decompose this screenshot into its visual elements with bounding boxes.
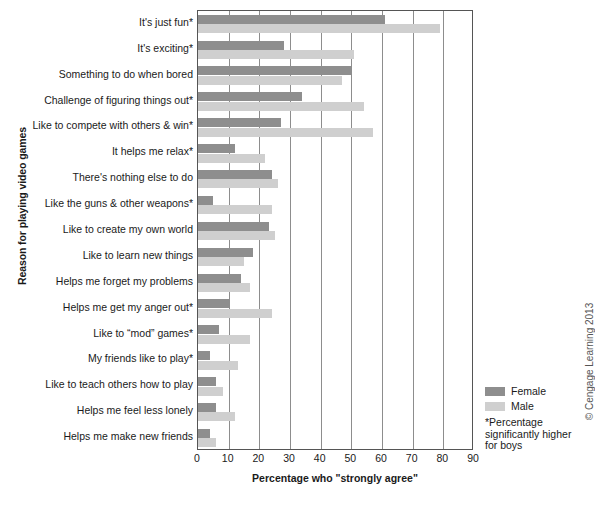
category-label-2: Something to do when bored (18, 69, 193, 80)
bar-female-7 (198, 196, 213, 205)
bar-male-6 (198, 179, 278, 188)
bar-female-8 (198, 222, 269, 231)
category-label-list: It's just fun*It's exciting*Something to… (18, 10, 193, 450)
x-tick-80: 80 (427, 452, 457, 464)
bar-male-16 (198, 438, 216, 447)
category-label-4: Like to compete with others & win* (18, 120, 193, 131)
x-tick-0: 0 (182, 452, 212, 464)
bar-female-1 (198, 41, 284, 50)
legend-swatch-female-icon (485, 387, 505, 396)
gridline-50 (351, 11, 352, 449)
x-tick-20: 20 (243, 452, 273, 464)
x-axis-tick-labels: 0102030405060708090 (197, 452, 473, 466)
bar-male-1 (198, 50, 354, 59)
category-label-7: Like the guns & other weapons* (18, 198, 193, 209)
legend-item-female: Female (485, 386, 580, 397)
legend-footnote: *Percentage significantly higher for boy… (485, 417, 577, 452)
plot-area (197, 10, 473, 450)
bar-male-14 (198, 387, 223, 396)
bar-male-4 (198, 128, 373, 137)
bar-female-11 (198, 299, 229, 308)
category-label-0: It's just fun* (18, 17, 193, 28)
legend-label-male: Male (511, 401, 534, 412)
category-label-3: Challenge of figuring things out* (18, 95, 193, 106)
legend: Female Male *Percentage significantly hi… (485, 386, 580, 452)
category-label-16: Helps me make new friends (18, 431, 193, 442)
x-tick-30: 30 (274, 452, 304, 464)
bar-female-2 (198, 66, 351, 75)
bar-male-13 (198, 361, 238, 370)
x-axis-title: Percentage who "strongly agree" (197, 472, 473, 484)
category-label-1: It's exciting* (18, 43, 193, 54)
bar-male-7 (198, 205, 272, 214)
legend-footnote-line-1: *Percentage (485, 417, 577, 429)
bar-female-15 (198, 403, 216, 412)
bar-female-0 (198, 15, 385, 24)
bar-male-11 (198, 309, 272, 318)
category-label-5: It helps me relax* (18, 146, 193, 157)
category-label-10: Helps me forget my problems (18, 276, 193, 287)
x-tick-10: 10 (213, 452, 243, 464)
legend-footnote-line-3: for boys (485, 440, 577, 452)
category-label-9: Like to learn new things (18, 250, 193, 261)
x-tick-50: 50 (335, 452, 365, 464)
bar-female-3 (198, 92, 302, 101)
bar-male-0 (198, 24, 440, 33)
bar-male-8 (198, 231, 275, 240)
bar-male-10 (198, 283, 250, 292)
x-tick-40: 40 (305, 452, 335, 464)
bar-female-16 (198, 429, 210, 438)
category-label-14: Like to teach others how to play (18, 379, 193, 390)
bar-male-2 (198, 76, 342, 85)
category-label-15: Helps me feel less lonely (18, 405, 193, 416)
bar-male-5 (198, 154, 265, 163)
bar-female-6 (198, 170, 272, 179)
gridline-60 (382, 11, 383, 449)
bar-female-13 (198, 351, 210, 360)
bar-female-12 (198, 325, 219, 334)
x-tick-70: 70 (397, 452, 427, 464)
bar-female-9 (198, 248, 253, 257)
bar-female-10 (198, 274, 241, 283)
bar-male-9 (198, 257, 244, 266)
gridline-80 (443, 11, 444, 449)
x-tick-90: 90 (458, 452, 488, 464)
category-label-13: My friends like to play* (18, 353, 193, 364)
category-label-11: Helps me get my anger out* (18, 302, 193, 313)
bar-female-5 (198, 144, 235, 153)
legend-label-female: Female (511, 386, 546, 397)
bar-female-14 (198, 377, 216, 386)
category-label-8: Like to create my own world (18, 224, 193, 235)
x-tick-60: 60 (366, 452, 396, 464)
legend-swatch-male-icon (485, 402, 505, 411)
bar-male-15 (198, 412, 235, 421)
legend-item-male: Male (485, 401, 580, 412)
gridline-70 (413, 11, 414, 449)
category-label-12: Like to “mod” games* (18, 328, 193, 339)
bar-male-3 (198, 102, 364, 111)
bar-male-12 (198, 335, 250, 344)
copyright-credit: © Cengage Learning 2013 (584, 297, 595, 427)
bar-female-4 (198, 118, 281, 127)
category-label-6: There's nothing else to do (18, 172, 193, 183)
